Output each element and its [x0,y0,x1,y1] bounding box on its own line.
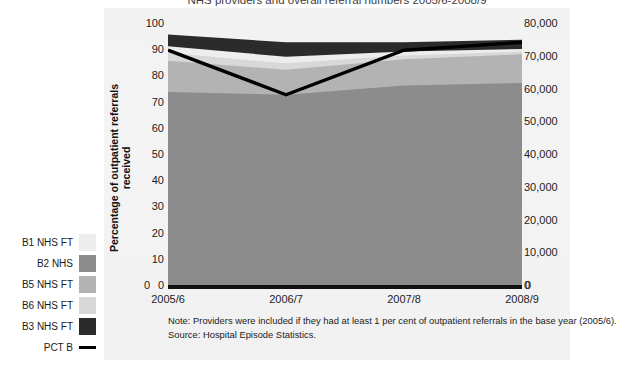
chart-title: NHS providers and overall referral numbe… [104,0,570,6]
legend-color-swatch [79,234,96,251]
right-tick-70000: 70,000 [524,51,586,62]
left-tick-20: 20 [120,228,164,239]
left-tick-80: 80 [120,70,164,81]
right-tick-30000: 30,000 [524,182,586,193]
left-tick-50: 50 [120,149,164,160]
legend-item-label: B3 NHS FT [22,321,73,332]
x-axis-line [168,285,522,289]
legend-item-pct-b[interactable]: PCT B [4,337,96,358]
left-tick-40: 40 [120,175,164,186]
plot-panel: Percentage of outpatient referrals recei… [104,8,570,360]
left-tick-30: 30 [120,201,164,212]
chart-figure: NHS providers and overall referral numbe… [0,0,624,372]
legend-item-label: PCT B [44,342,73,353]
footnote: Note: Providers were included if they ha… [168,314,566,342]
right-tick-60000: 60,000 [524,84,586,95]
left-tick-60: 60 [120,123,164,134]
plot-area [168,24,522,286]
legend-item-b2-nhs[interactable]: B2 NHS [4,253,96,274]
left-tick-70: 70 [120,97,164,108]
x-tick-2005-6: 2005/6 [133,293,203,305]
legend-item-label: B2 NHS [37,258,73,269]
legend-color-swatch [79,297,96,314]
x-tick-2006-7: 2006/7 [251,293,321,305]
left-axis-zero-label: 0 [144,279,150,291]
chart-legend: B1 NHS FTB2 NHSB5 NHS FTB6 NHS FTB3 NHS … [4,232,96,358]
legend-item-b3-nhs-ft[interactable]: B3 NHS FT [4,316,96,337]
footnote-source: Source: Hospital Episode Statistics. [168,328,566,342]
right-tick-20000: 20,000 [524,215,586,226]
legend-color-swatch [79,318,96,335]
right-tick-40000: 40,000 [524,149,586,160]
right-tick-10000: 10,000 [524,247,586,258]
right-axis-zero-label: 0 [525,279,531,291]
left-tick-10: 10 [120,254,164,265]
x-axis-tick-labels: 2005/62006/72007/82008/9 [152,293,540,309]
left-tick-0: 0 [120,280,164,291]
legend-item-b1-nhs-ft[interactable]: B1 NHS FT [4,232,96,253]
left-tick-90: 90 [120,44,164,55]
legend-item-b6-nhs-ft[interactable]: B6 NHS FT [4,295,96,316]
footnote-note: Note: Providers were included if they ha… [168,314,566,328]
legend-line-swatch [79,346,96,349]
left-tick-100: 100 [120,18,164,29]
legend-item-label: B5 NHS FT [22,279,73,290]
x-tick-2007-8: 2007/8 [369,293,439,305]
right-tick-0: 0 [524,280,586,291]
legend-item-label: B1 NHS FT [22,237,73,248]
stacked-area-svg [168,24,522,286]
area-band-b2-nhs [168,83,522,286]
x-tick-2008-9: 2008/9 [487,293,557,305]
legend-color-swatch [79,255,96,272]
right-tick-80000: 80,000 [524,18,586,29]
legend-item-label: B6 NHS FT [22,300,73,311]
legend-item-b5-nhs-ft[interactable]: B5 NHS FT [4,274,96,295]
right-tick-50000: 50,000 [524,116,586,127]
legend-color-swatch [79,276,96,293]
